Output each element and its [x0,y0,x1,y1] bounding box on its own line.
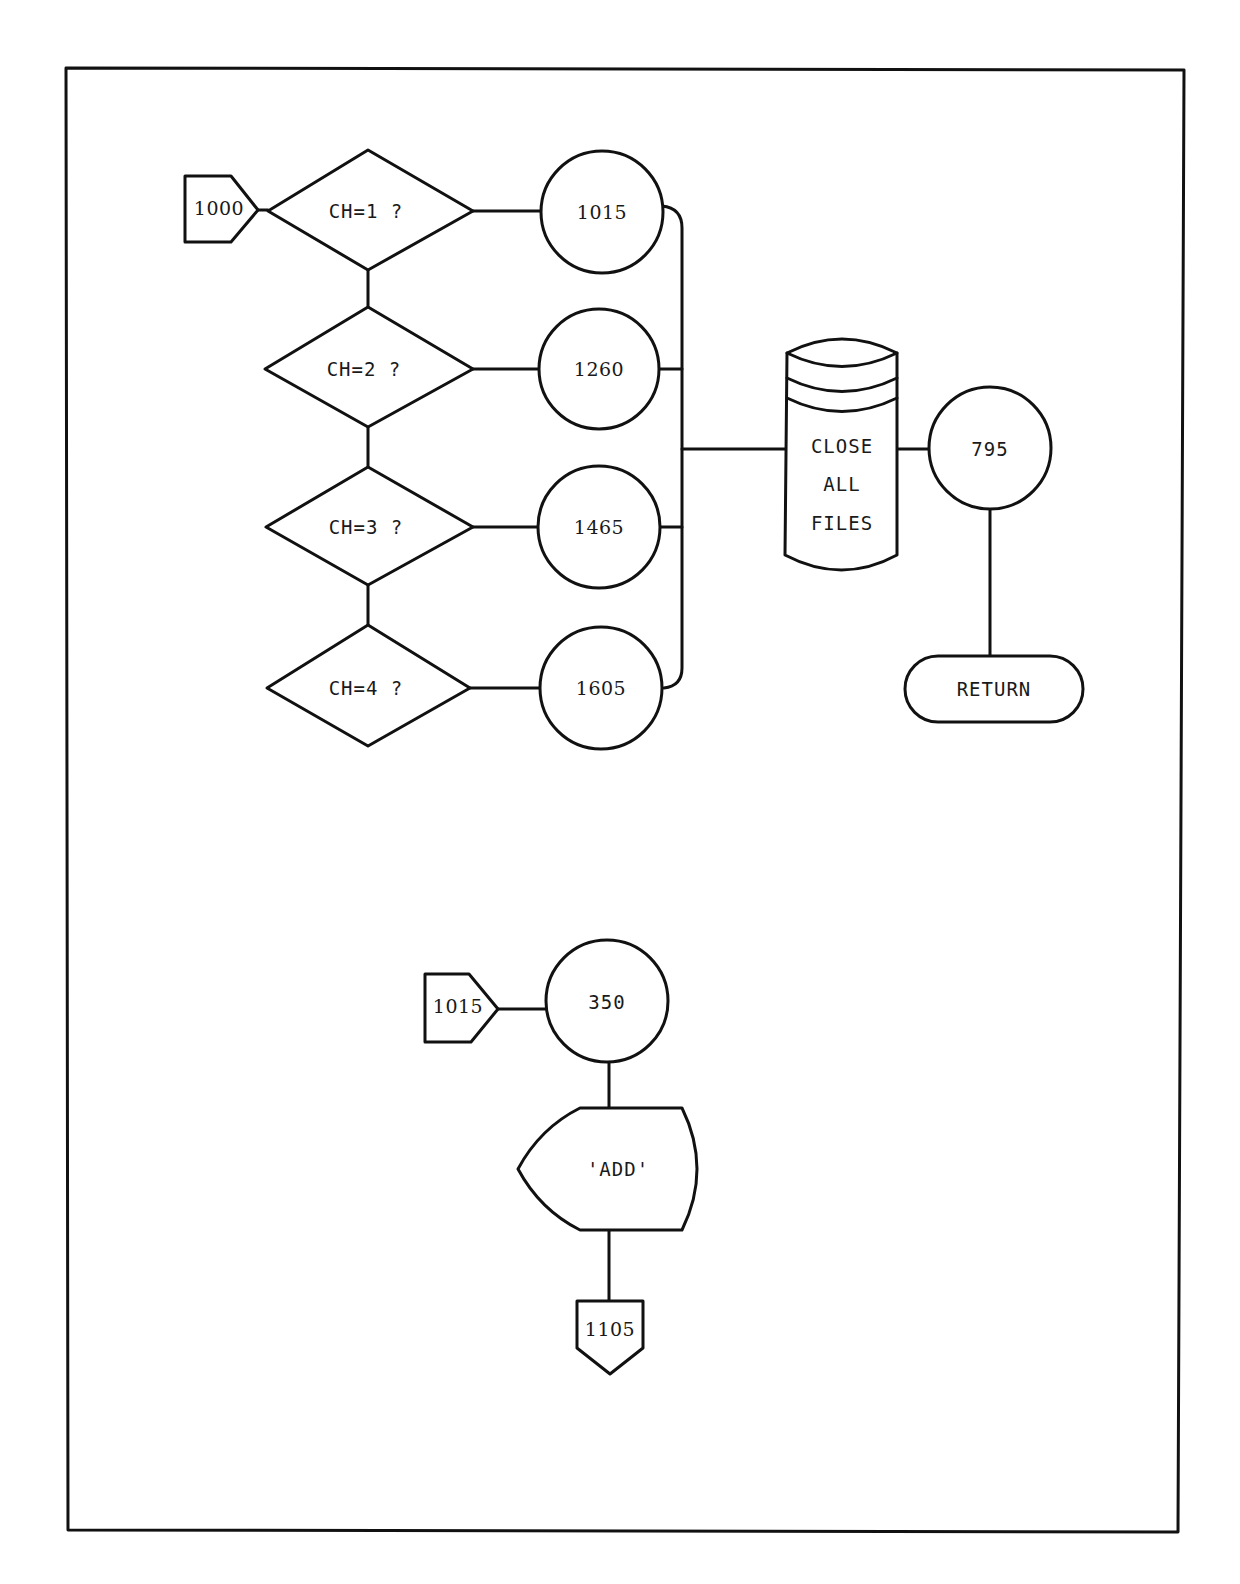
off-page-connector-1015: 1015 [425,974,498,1042]
terminal-label: RETURN [957,678,1032,700]
subroutine-label: 1260 [574,358,624,380]
storage-label-line-2: ALL [823,473,860,495]
subroutine-1015: 1015 [541,151,663,273]
subroutine-label: 795 [971,438,1008,460]
subroutine-1605: 1605 [540,627,662,749]
decision-label: CH=4 ? [329,677,404,699]
connector-label: 1015 [433,995,483,1017]
decision-ch3: CH=3 ? [266,467,473,585]
subroutine-label: 350 [588,991,625,1013]
decision-ch1: CH=1 ? [268,150,473,270]
flowchart-canvas: 1000 CH=1 ? CH=2 ? CH=3 ? CH=4 ? 1015 12… [0,0,1240,1584]
display-add: 'ADD' [518,1108,697,1230]
storage-label-line-3: FILES [811,512,873,534]
off-page-connector-1000: 1000 [185,176,268,242]
decision-label: CH=2 ? [327,358,402,380]
merge-bracket [662,206,682,688]
display-label: 'ADD' [587,1158,649,1180]
subroutine-label: 1015 [577,201,627,223]
bottom-flowchart: 1015 350 'ADD' 1105 [425,940,697,1374]
storage-label-line-1: CLOSE [811,435,873,457]
connector-label: 1000 [194,197,244,219]
subroutine-1260: 1260 [539,309,659,429]
connector-label: 1105 [585,1318,635,1340]
decision-label: CH=3 ? [329,516,404,538]
storage-close-all-files: CLOSE ALL FILES [785,339,897,570]
decision-ch4: CH=4 ? [267,625,470,746]
top-flowchart: 1000 CH=1 ? CH=2 ? CH=3 ? CH=4 ? 1015 12… [185,150,1083,749]
decision-ch2: CH=2 ? [265,307,473,427]
subroutine-label: 1605 [576,677,626,699]
decision-label: CH=1 ? [329,200,404,222]
off-page-connector-1105: 1105 [577,1301,643,1374]
subroutine-label: 1465 [574,516,624,538]
subroutine-350: 350 [546,940,668,1062]
subroutine-795: 795 [929,387,1051,509]
subroutine-1465: 1465 [538,466,660,588]
terminal-return: RETURN [905,656,1083,722]
